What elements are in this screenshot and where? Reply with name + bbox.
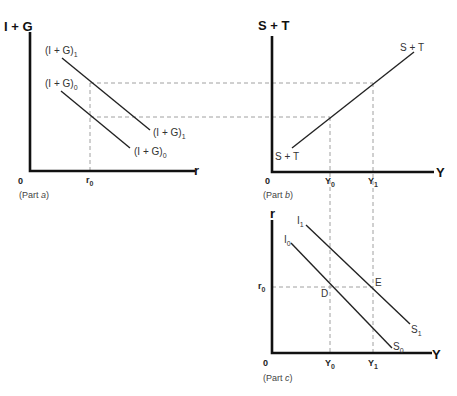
- label-i1: I1: [297, 215, 304, 228]
- curve-ig0: [61, 91, 130, 148]
- origin-c: 0: [263, 358, 268, 368]
- origin-b: 0: [265, 176, 270, 186]
- caption-part-b: (Part b): [263, 190, 293, 200]
- caption-part-a: (Part a): [19, 190, 49, 200]
- label-ig1-bottom: (I + G)1: [153, 127, 186, 140]
- label-ig1-top: (I + G)1: [45, 45, 78, 58]
- caption-part-c: (Part c): [263, 373, 293, 383]
- origin-a: 0: [18, 176, 23, 186]
- tick-y1-c: Y1: [368, 358, 378, 370]
- curve-ig1: [62, 58, 150, 130]
- point-d-label: D: [321, 288, 328, 299]
- label-st-bottom: S + T: [275, 151, 299, 162]
- tick-y1-b: Y1: [368, 176, 378, 188]
- tick-r0-c: r0: [258, 281, 266, 293]
- panel-b: S + T Y 0 Y0 Y1 S + T S + T (Part b): [258, 18, 445, 353]
- tick-r0-a: r0: [86, 175, 94, 187]
- label-i0: I0: [284, 234, 291, 247]
- label-ig0-top: (I + G)0: [45, 78, 78, 91]
- panel-c: r Y 0 r0 Y0 Y1 I1 I0 S1 S0 D E (Part c): [258, 206, 441, 383]
- tick-y0-b: Y0: [325, 176, 335, 188]
- axes-c: [272, 220, 432, 353]
- label-ig0-bottom: (I + G)0: [134, 146, 167, 159]
- axis-title-ig: I + G: [4, 19, 33, 34]
- axis-title-y-b: Y: [436, 165, 445, 180]
- point-e-label: E: [375, 277, 382, 288]
- label-s1: S1: [411, 324, 422, 337]
- axis-title-st: S + T: [258, 18, 289, 33]
- is-ls-diagram: I + G r 0 r0 (I + G)1 (I + G)0 (I + G)1 …: [0, 0, 457, 396]
- label-st-top: S + T: [400, 42, 424, 53]
- axis-title-r-c: r: [270, 206, 275, 221]
- tick-y0-c: Y0: [325, 358, 335, 370]
- axis-title-y-c: Y: [432, 347, 441, 362]
- axis-title-r: r: [194, 163, 199, 178]
- curve-st: [292, 52, 414, 148]
